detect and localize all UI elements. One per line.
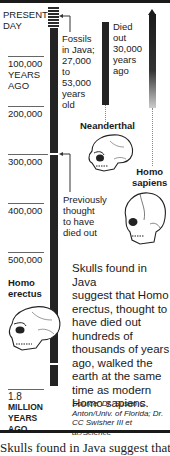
note-line: to have: [63, 216, 107, 227]
body-line: Skulls found in Java: [72, 262, 170, 289]
note-line: in Java;: [62, 44, 95, 55]
label-line: Homo: [132, 166, 167, 177]
homo-sapiens-skull-icon: [118, 190, 168, 246]
note-line: Died: [113, 21, 142, 32]
source-line: CC Swisher III et: [72, 418, 163, 428]
tick-line: 100,000: [8, 58, 42, 69]
neanderthal-label: Neanderthal: [80, 120, 135, 131]
note-line: thought: [63, 205, 107, 216]
article-caption: Skulls found in Java suggest that Homo e…: [0, 440, 170, 456]
tick-line: PRESENT: [3, 9, 48, 20]
tick-line-100k: [8, 56, 44, 57]
body-line: hundreds of: [72, 330, 170, 344]
note-line: old: [62, 99, 95, 110]
neanderthal-died-note: Died out 30,000 years ago: [113, 21, 142, 76]
body-paragraph: Skulls found in Java suggest that Homo e…: [72, 262, 170, 411]
homo-erectus-skull-icon: [4, 302, 64, 352]
note-line: Fossils: [62, 33, 95, 44]
tick-line: YEARS: [8, 413, 43, 424]
note-line: to: [62, 66, 95, 77]
tick-line-1-8m: [8, 389, 44, 390]
source-line: Source: Dr. Susan C.: [72, 399, 163, 409]
note-line: Previously: [63, 194, 107, 205]
tick-label-200k: 200,000: [8, 108, 42, 119]
tick-label-500k: 500,000: [8, 254, 42, 265]
previously-arrow-icon: [58, 150, 72, 192]
homo-erectus-label: Homo erectus: [8, 277, 42, 299]
body-line: ago, walked the: [72, 357, 170, 371]
note-line: ago: [113, 65, 142, 76]
tick-line: DAY: [3, 20, 48, 31]
note-line: years: [113, 54, 142, 65]
fossils-note: Fossils in Java; 27,000 to 53,000 years …: [62, 33, 95, 110]
neanderthal-timeline-bar: [102, 22, 109, 105]
tick-line-200k: [8, 106, 44, 107]
tick-label-1-8m: 1.8 MILLION YEARS AGO: [8, 391, 43, 435]
tick-line-500k: [8, 252, 44, 253]
homo-sapiens-label: Homo sapiens: [132, 166, 167, 188]
label-line: Homo: [8, 277, 42, 288]
note-line: 53,000: [62, 77, 95, 88]
body-line: have died out: [72, 316, 170, 330]
note-line: died out: [63, 227, 107, 238]
bottom-rule: [0, 430, 170, 433]
tick-line: MILLION: [8, 402, 43, 413]
note-line: 27,000: [62, 55, 95, 66]
tick-line: AGO: [8, 80, 42, 91]
body-line: thousands of years: [72, 343, 170, 357]
tick-label-300k: 300,000: [8, 156, 42, 167]
tick-label-present: PRESENT DAY: [3, 9, 48, 31]
bar-break-scale: [48, 363, 60, 365]
tick-line-300k: [8, 154, 50, 155]
fossils-arrow-icon: [58, 12, 72, 32]
tick-line: YEARS: [8, 69, 42, 80]
label-line: sapiens: [132, 177, 167, 188]
tick-label-100k: 100,000 YEARS AGO: [8, 58, 42, 91]
homo-sapiens-dotted-line: [152, 108, 153, 166]
note-line: out: [113, 32, 142, 43]
body-line: time as modern: [72, 384, 170, 398]
tick-line-400k: [8, 203, 44, 204]
body-line: suggest that Homo: [72, 289, 170, 303]
label-line: erectus: [8, 288, 42, 299]
previously-note: Previously thought to have died out: [63, 194, 107, 238]
tick-label-400k: 400,000: [8, 205, 42, 216]
tick-line: 1.8: [8, 391, 43, 402]
body-line: earth at the same: [72, 370, 170, 384]
note-line: years: [62, 88, 95, 99]
top-rule: [0, 0, 170, 3]
note-line: 30,000: [113, 43, 142, 54]
body-line: erectus, thought to: [72, 303, 170, 317]
neanderthal-skull-icon: [84, 133, 136, 173]
homo-sapiens-timeline-bar: [149, 14, 156, 108]
source-line: Anton/Univ. of Florida; Dr.: [72, 409, 163, 419]
